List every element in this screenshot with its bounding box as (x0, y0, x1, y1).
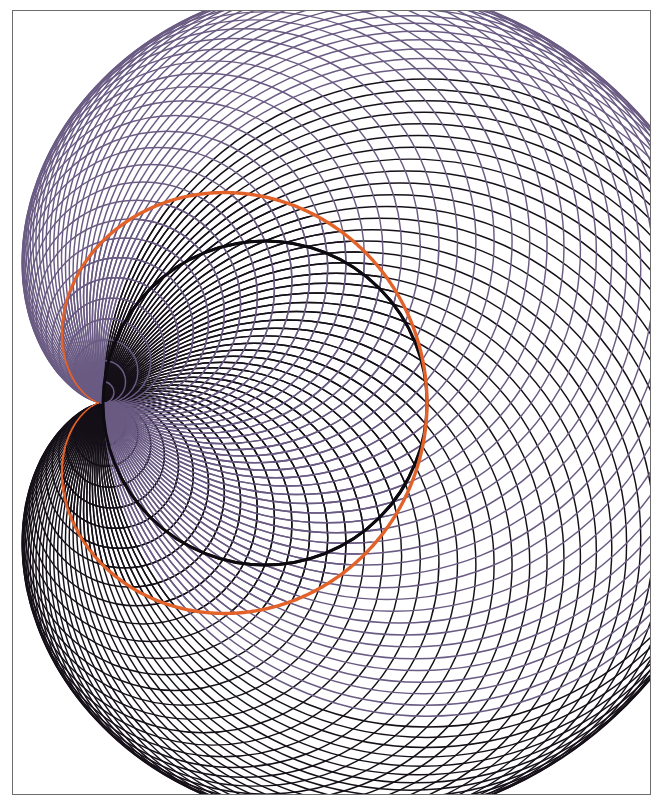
figure-page (0, 0, 668, 809)
caustic-plot-canvas (0, 0, 668, 809)
